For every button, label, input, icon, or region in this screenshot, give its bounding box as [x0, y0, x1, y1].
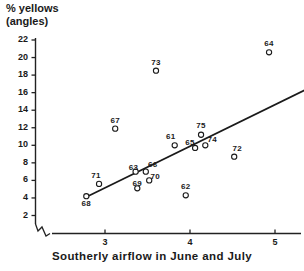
data-point-marker — [84, 194, 89, 199]
y-tick-label: 18 — [6, 69, 28, 79]
data-point-marker — [96, 181, 101, 186]
x-axis-title: Southerly airflow in June and July — [0, 250, 304, 262]
data-point-label: 65 — [181, 138, 199, 147]
y-tick-label: 22 — [6, 34, 28, 44]
scatter-chart: % yellows (angles) 246810121416182022 34… — [0, 0, 304, 271]
data-point-label: 75 — [192, 121, 210, 130]
data-point-label: 67 — [106, 116, 124, 125]
data-point-label: 64 — [260, 39, 278, 48]
data-point-label: 70 — [146, 172, 164, 181]
data-point-label: 63 — [125, 163, 143, 172]
data-point-marker — [153, 68, 158, 73]
data-point-label: 61 — [162, 132, 180, 141]
data-point-label: 73 — [147, 58, 165, 67]
data-point-label: 69 — [128, 179, 146, 188]
y-tick-label: 10 — [6, 139, 28, 149]
y-tick-label: 8 — [6, 157, 28, 167]
axis-break-icon — [36, 224, 51, 236]
x-tick-label: 4 — [183, 237, 197, 247]
y-tick-label: 20 — [6, 52, 28, 62]
data-point-marker — [266, 50, 271, 55]
y-tick-label: 4 — [6, 192, 28, 202]
data-point-marker — [113, 126, 118, 131]
data-point-label: 71 — [87, 171, 105, 180]
y-tick-label: 6 — [6, 174, 28, 184]
data-point-marker — [232, 154, 237, 159]
plot-canvas — [0, 0, 304, 271]
x-tick-label: 3 — [98, 237, 112, 247]
data-point-label: 66 — [144, 160, 162, 169]
y-tick-label: 12 — [6, 122, 28, 132]
data-point-label: 72 — [228, 144, 246, 153]
data-point-label: 74 — [203, 135, 221, 144]
data-point-marker — [172, 143, 177, 148]
data-point-label: 62 — [177, 182, 195, 191]
y-tick-label: 16 — [6, 87, 28, 97]
data-point-marker — [183, 193, 188, 198]
y-tick-label: 14 — [6, 104, 28, 114]
x-tick-label: 5 — [268, 237, 282, 247]
y-tick-label: 2 — [6, 210, 28, 220]
data-point-label: 68 — [77, 199, 95, 208]
